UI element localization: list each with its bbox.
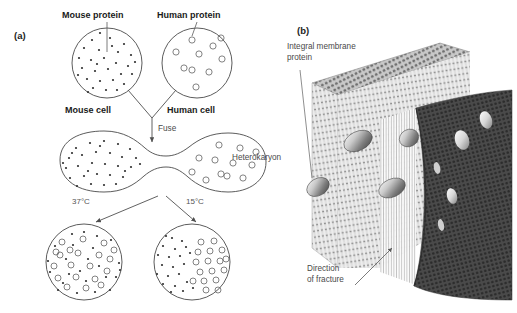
panel-b-tag: (b) xyxy=(297,25,309,36)
integral-membrane-protein-label-line2: protein xyxy=(287,53,312,63)
panel-b-diagram xyxy=(0,0,517,313)
direction-of-fracture-label-line2: of fracture xyxy=(307,275,344,285)
fractured-outer-leaflet xyxy=(414,90,512,300)
direction-of-fracture-label-line1: Direction xyxy=(307,264,339,274)
integral-protein-leader xyxy=(300,70,312,178)
membrane-left-edge xyxy=(312,83,338,268)
figure-root: (a) Mouse protein Human protein Mouse ce… xyxy=(0,0,517,313)
integral-membrane-protein-label-line1: Integral membrane xyxy=(287,42,356,52)
